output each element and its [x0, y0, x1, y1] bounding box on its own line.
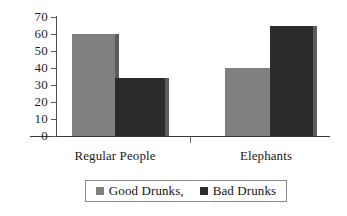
- legend-swatch-good-drunks: [96, 187, 104, 195]
- category-separator-tick: [190, 137, 191, 143]
- x-axis-line: [30, 136, 330, 137]
- bar-regular-people-bad-drunks: [115, 78, 165, 136]
- bar-chart: 706050403020100 Regular People Elephants…: [0, 0, 347, 216]
- bar-regular-people-good-drunks-: [72, 34, 115, 136]
- x-axis-label-elephants: Elephants: [196, 148, 336, 163]
- legend-label-good-drunks: Good Drunks,: [109, 184, 184, 198]
- bar-elephants-good-drunks-: [225, 68, 270, 136]
- x-axis-label-regular-people: Regular People: [40, 148, 190, 163]
- legend-label-bad-drunks: Bad Drunks: [213, 184, 276, 198]
- chart-legend: Good Drunks, Bad Drunks: [85, 180, 287, 202]
- bar-elephants-bad-drunks: [270, 26, 313, 137]
- legend-entry-good-drunks: Good Drunks,: [96, 184, 184, 198]
- y-tick-mark: [51, 136, 57, 137]
- legend-entry-bad-drunks: Bad Drunks: [200, 184, 276, 198]
- legend-swatch-bad-drunks: [200, 187, 208, 195]
- plot-area: 706050403020100 Regular People Elephants: [0, 0, 347, 150]
- bars-layer: [0, 0, 347, 136]
